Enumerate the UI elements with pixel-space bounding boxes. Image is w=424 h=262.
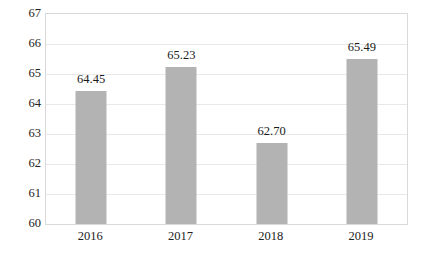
y-tick-label-61: 61 — [7, 187, 41, 200]
x-tick-label-2019: 2019 — [348, 230, 373, 243]
bar-value-label-2019: 65.49 — [348, 41, 376, 54]
bar-2016[interactable] — [76, 91, 107, 225]
bar-value-label-2016: 64.45 — [77, 73, 105, 86]
bar-value-label-2017: 65.23 — [167, 49, 195, 62]
bar-chart-screenshot: 6061626364656667 64.4565.2362.7065.49 20… — [0, 0, 424, 262]
plot-area: 64.4565.2362.7065.49 — [45, 13, 408, 225]
y-tick-label-62: 62 — [7, 157, 41, 170]
x-tick-label-2016: 2016 — [78, 230, 103, 243]
bar-value-label-2018: 62.70 — [258, 125, 286, 138]
y-axis: 6061626364656667 — [0, 0, 41, 262]
y-tick-label-66: 66 — [7, 37, 41, 50]
bar-group-2019: 65.49 — [317, 14, 407, 224]
y-tick-label-63: 63 — [7, 127, 41, 140]
x-tick-label-2018: 2018 — [258, 230, 283, 243]
x-tick-label-2017: 2017 — [168, 230, 193, 243]
bar-group-2016: 64.45 — [46, 14, 136, 224]
y-tick-label-64: 64 — [7, 97, 41, 110]
y-tick-label-60: 60 — [7, 217, 41, 230]
bar-group-2018: 62.70 — [227, 14, 317, 224]
y-tick-label-67: 67 — [7, 7, 41, 20]
bar-2018[interactable] — [256, 143, 287, 224]
bar-2019[interactable] — [346, 59, 377, 224]
bar-group-2017: 65.23 — [136, 14, 226, 224]
x-axis: 2016201720182019 — [45, 230, 408, 252]
y-tick-label-65: 65 — [7, 67, 41, 80]
bar-2017[interactable] — [166, 67, 197, 224]
